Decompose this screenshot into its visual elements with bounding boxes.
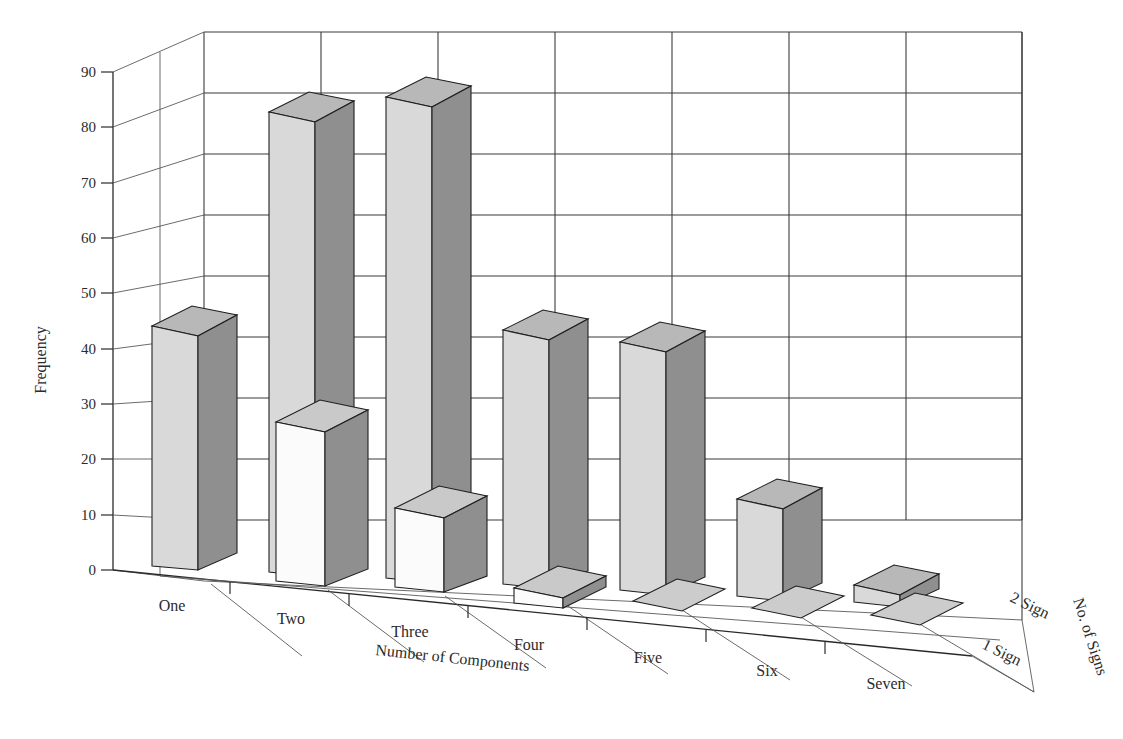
y-axis-title: Frequency xyxy=(32,326,50,394)
x-category-label-four: Four xyxy=(514,636,545,653)
x-category-label-seven: Seven xyxy=(866,675,905,692)
z-category-label-2-sign: 2 Sign xyxy=(1007,588,1052,622)
y-tick-label-80: 80 xyxy=(81,119,96,135)
x-category-label-three: Three xyxy=(391,623,428,640)
y-tick-label-90: 90 xyxy=(81,64,96,80)
x-category-label-one: One xyxy=(159,597,186,614)
y-axis-ticks: 90 80 70 60 50 40 30 20 10 0 xyxy=(81,64,113,578)
y-tick-label-10: 10 xyxy=(81,507,96,523)
y-tick-label-40: 40 xyxy=(81,341,96,357)
y-tick-label-60: 60 xyxy=(81,230,96,246)
y-tick-label-70: 70 xyxy=(81,175,96,191)
three-d-bar-chart: 90 80 70 60 50 40 30 20 10 0 Frequency xyxy=(0,0,1123,739)
y-tick-label-20: 20 xyxy=(81,451,96,467)
series-2-sign-bars xyxy=(152,77,939,607)
bar-back-five[interactable] xyxy=(620,322,705,595)
y-tick-label-0: 0 xyxy=(89,562,97,578)
bar-front-two[interactable] xyxy=(276,400,368,586)
x-axis-title: Number of Components xyxy=(375,641,531,675)
bar-back-four[interactable] xyxy=(503,310,588,589)
x-category-label-two: Two xyxy=(277,610,305,627)
bar-back-six[interactable] xyxy=(737,479,822,601)
chart-page: 90 80 70 60 50 40 30 20 10 0 Frequency xyxy=(0,0,1123,739)
z-axis-labels: 2 Sign 1 Sign No. of Signs xyxy=(979,588,1111,677)
z-axis-title: No. of Signs xyxy=(1069,596,1111,678)
x-category-label-five: Five xyxy=(634,649,662,666)
x-category-label-six: Six xyxy=(756,662,777,679)
bar-front-three[interactable] xyxy=(395,486,487,592)
bar-back-one[interactable] xyxy=(152,306,237,570)
y-tick-label-30: 30 xyxy=(81,396,96,412)
y-tick-label-50: 50 xyxy=(81,285,96,301)
